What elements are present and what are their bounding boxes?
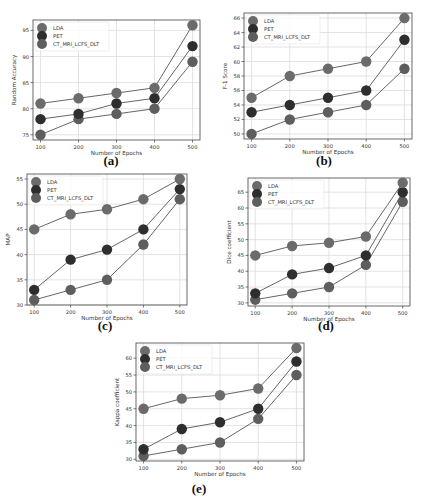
- svg-text:500: 500: [175, 309, 185, 315]
- chart-panel-a: 7580859095100200300400500Number of Epoch…: [0, 0, 212, 170]
- svg-text:85: 85: [22, 80, 29, 86]
- legend-label: CT_MRI_LCFS_DLT: [268, 199, 315, 206]
- svg-text:100: 100: [36, 144, 46, 150]
- legend-label: LDA: [264, 18, 275, 24]
- svg-text:54: 54: [233, 102, 240, 108]
- svg-text:95: 95: [22, 27, 29, 33]
- svg-text:40: 40: [125, 423, 132, 429]
- svg-text:50: 50: [125, 389, 132, 395]
- svg-text:55: 55: [125, 372, 132, 378]
- caption-a: (a): [96, 153, 126, 169]
- y-axis-label: Dice coefficient: [226, 220, 232, 264]
- svg-text:500: 500: [399, 143, 409, 149]
- svg-text:56: 56: [233, 87, 240, 93]
- chart-panel-e: 30354045505560100200300400500Number of E…: [100, 330, 320, 501]
- svg-text:100: 100: [139, 465, 149, 471]
- x-axis-ticks: 100200300400500: [250, 306, 407, 316]
- legend: LDAPETCT_MRI_LCFS_DLT: [29, 176, 103, 205]
- svg-text:200: 200: [285, 143, 295, 149]
- svg-text:300: 300: [324, 310, 334, 316]
- svg-text:400: 400: [361, 143, 371, 149]
- svg-text:400: 400: [253, 465, 263, 471]
- svg-text:300: 300: [102, 309, 112, 315]
- svg-text:35: 35: [237, 284, 244, 290]
- svg-text:200: 200: [66, 309, 76, 315]
- legend: LDAPETCT_MRI_LCFS_DLT: [138, 345, 212, 374]
- legend-label: PET: [47, 187, 57, 193]
- x-axis-ticks: 100200300400500: [36, 140, 198, 150]
- svg-text:80: 80: [22, 106, 29, 112]
- legend-label: PET: [264, 26, 274, 32]
- legend-marker-icon: [31, 193, 41, 203]
- svg-text:35: 35: [125, 439, 132, 445]
- line-chart-d: 3035404550556065100200300400500Number of…: [212, 170, 423, 335]
- svg-text:200: 200: [74, 144, 84, 150]
- x-axis-label: Number of Epochs: [194, 471, 246, 478]
- y-axis-label: Random Accuracy: [11, 54, 18, 105]
- legend-marker-icon: [37, 39, 47, 49]
- y-axis-ticks: 303540455055: [16, 176, 27, 308]
- svg-text:60: 60: [237, 205, 244, 211]
- svg-text:60: 60: [233, 59, 240, 65]
- legend-label: LDA: [156, 348, 167, 354]
- svg-text:100: 100: [250, 310, 260, 316]
- svg-text:30: 30: [16, 302, 23, 308]
- svg-text:400: 400: [138, 309, 148, 315]
- chart-panel-b: 505254565860626466100200300400500Number …: [212, 0, 423, 170]
- svg-text:300: 300: [323, 143, 333, 149]
- svg-text:45: 45: [16, 226, 23, 232]
- svg-text:90: 90: [22, 54, 29, 60]
- line-chart-c: 303540455055100200300400500Number of Epo…: [0, 170, 212, 335]
- legend-marker-icon: [248, 32, 258, 42]
- svg-text:500: 500: [398, 310, 408, 316]
- svg-text:50: 50: [16, 201, 23, 207]
- legend-label: PET: [268, 191, 278, 197]
- legend-label: LDA: [47, 179, 58, 185]
- line-chart-e: 30354045505560100200300400500Number of E…: [100, 330, 320, 501]
- svg-text:60: 60: [125, 355, 132, 361]
- svg-text:40: 40: [237, 268, 244, 274]
- legend: LDAPETCT_MRI_LCFS_DLT: [250, 180, 324, 209]
- svg-text:400: 400: [150, 144, 160, 150]
- svg-text:40: 40: [16, 252, 23, 258]
- legend-marker-icon: [252, 197, 262, 207]
- svg-text:50: 50: [233, 131, 240, 137]
- svg-text:65: 65: [237, 189, 244, 195]
- svg-text:66: 66: [233, 15, 240, 21]
- legend: LDAPETCT_MRI_LCFS_DLT: [35, 22, 109, 51]
- y-axis-label: Kappa coefficient: [114, 377, 121, 426]
- svg-text:45: 45: [125, 406, 132, 412]
- svg-text:30: 30: [237, 300, 244, 306]
- legend-label: LDA: [268, 183, 279, 189]
- legend-label: CT_MRI_LCFS_DLT: [156, 364, 203, 371]
- chart-panel-d: 3035404550556065100200300400500Number of…: [212, 170, 423, 335]
- legend-label: CT_MRI_LCFS_DLT: [47, 195, 94, 202]
- svg-text:45: 45: [237, 252, 244, 258]
- chart-panel-c: 303540455055100200300400500Number of Epo…: [0, 170, 212, 335]
- svg-text:500: 500: [291, 465, 301, 471]
- x-axis-ticks: 100200300400500: [247, 139, 410, 149]
- svg-text:300: 300: [215, 465, 225, 471]
- y-axis-ticks: 7580859095: [22, 27, 33, 137]
- y-axis-ticks: 505254565860626466: [233, 15, 244, 137]
- line-chart-a: 7580859095100200300400500Number of Epoch…: [0, 0, 212, 170]
- legend-label: CT_MRI_LCFS_DLT: [264, 34, 311, 41]
- svg-text:55: 55: [237, 221, 244, 227]
- svg-text:200: 200: [287, 310, 297, 316]
- legend-label: CT_MRI_LCFS_DLT: [53, 41, 100, 48]
- svg-text:35: 35: [16, 277, 23, 283]
- svg-text:200: 200: [177, 465, 187, 471]
- caption-b: (b): [309, 153, 339, 169]
- legend-marker-icon: [140, 362, 150, 372]
- svg-text:400: 400: [361, 310, 371, 316]
- legend-label: PET: [53, 33, 63, 39]
- legend-label: PET: [156, 356, 166, 362]
- y-axis-ticks: 3035404550556065: [237, 189, 248, 306]
- svg-text:30: 30: [125, 456, 132, 462]
- y-axis-label: MAP: [5, 233, 11, 246]
- legend-label: LDA: [53, 25, 64, 31]
- svg-text:52: 52: [233, 116, 240, 122]
- svg-text:100: 100: [29, 309, 39, 315]
- svg-text:50: 50: [237, 237, 244, 243]
- legend: LDAPETCT_MRI_LCFS_DLT: [246, 15, 320, 44]
